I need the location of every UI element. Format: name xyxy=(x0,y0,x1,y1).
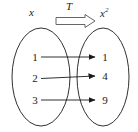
codomain-value-9: 9 xyxy=(99,95,111,106)
mapping-arrow-2-to-4 xyxy=(41,76,95,79)
domain-value-2: 2 xyxy=(29,73,41,84)
codomain-label: x2 xyxy=(100,7,108,19)
domain-value-1: 1 xyxy=(29,52,41,63)
codomain-value-1: 1 xyxy=(99,52,111,63)
codomain-label-exponent: 2 xyxy=(105,6,109,14)
diagram-canvas xyxy=(0,0,138,132)
domain-label: x xyxy=(29,7,34,18)
codomain-value-4: 4 xyxy=(99,71,111,82)
domain-set-ellipse xyxy=(12,28,70,126)
block-arrow-transform-icon xyxy=(56,15,95,28)
transform-label: T xyxy=(66,1,72,12)
mapping-diagram: x T x2 1 2 3 1 4 9 xyxy=(0,0,138,132)
domain-value-3: 3 xyxy=(29,95,41,106)
